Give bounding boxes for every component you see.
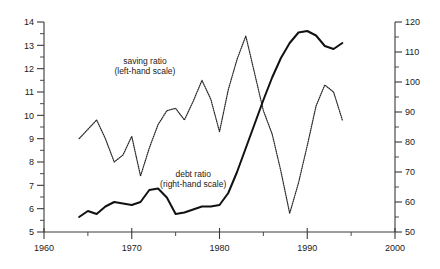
x-tick-label: 1980: [209, 243, 229, 253]
y-right-tick-label: 120: [405, 17, 420, 27]
dual-axis-line-chart: 5678910111213145060708090100110120196019…: [0, 0, 440, 269]
y-left-tick-label: 8: [29, 157, 34, 167]
y-left-tick-label: 5: [29, 227, 34, 237]
y-right-tick-label: 80: [405, 137, 415, 147]
y-left-tick-label: 12: [24, 64, 34, 74]
y-left-tick-label: 9: [29, 134, 34, 144]
y-right-tick-label: 60: [405, 197, 415, 207]
debt-annotation-line1: debt ratio: [175, 169, 211, 179]
x-tick-label: 1990: [297, 243, 317, 253]
chart-container: 5678910111213145060708090100110120196019…: [0, 0, 440, 269]
y-right-tick-label: 100: [405, 77, 420, 87]
y-left-tick-label: 10: [24, 111, 34, 121]
y-left-tick-label: 11: [25, 87, 34, 97]
debt-annotation-line2: (right-hand scale): [160, 179, 226, 189]
y-right-tick-label: 110: [405, 47, 419, 57]
y-left-tick-label: 13: [24, 41, 34, 51]
x-tick-label: 1970: [122, 243, 142, 253]
y-right-tick-label: 90: [405, 107, 415, 117]
x-tick-label: 1960: [34, 243, 54, 253]
saving-annotation-line1: saving ratio: [123, 56, 167, 66]
y-right-tick-label: 70: [405, 167, 415, 177]
y-left-tick-label: 7: [29, 181, 34, 191]
y-left-tick-label: 14: [24, 17, 34, 27]
y-left-tick-label: 6: [29, 204, 34, 214]
x-tick-label: 2000: [385, 243, 405, 253]
saving-annotation-line2: (left-hand scale): [114, 66, 175, 76]
y-right-tick-label: 50: [405, 227, 415, 237]
